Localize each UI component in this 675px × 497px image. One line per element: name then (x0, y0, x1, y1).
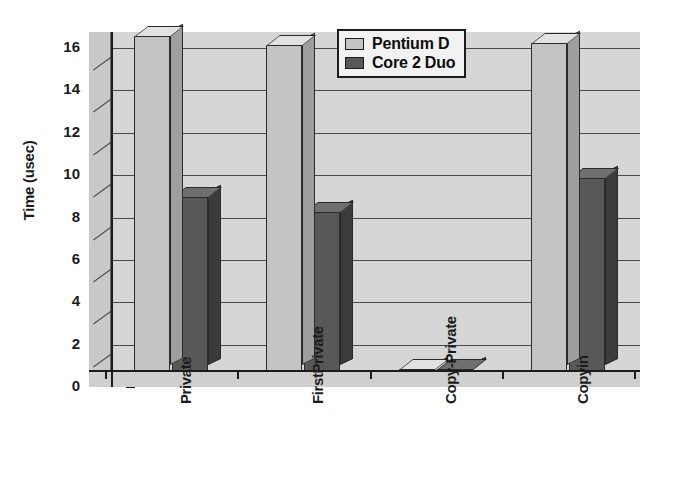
x-tick-mark (105, 370, 107, 379)
y-tick-label: 10 (46, 169, 80, 179)
y-tick-label: 16 (46, 42, 80, 52)
legend-label: Pentium D (372, 35, 449, 53)
plot-floor (89, 371, 640, 387)
chart-legend: Pentium DCore 2 Duo (337, 29, 466, 78)
x-tick-label: FirstPrivate (309, 326, 326, 404)
y-tick-label: 0 (46, 381, 80, 391)
x-tick-mark (502, 370, 504, 379)
x-tick-label: Copyin (574, 356, 591, 404)
y-tick-label: 2 (46, 339, 80, 349)
x-tick-mark (370, 370, 372, 379)
y-tick-label: 12 (46, 127, 80, 137)
x-tick-label: Copy-Private (442, 316, 459, 404)
legend-item: Pentium D (345, 34, 455, 53)
y-axis-tick-labels: 1614121086420 (46, 0, 80, 497)
y-tick-label: 8 (46, 212, 80, 222)
bar-group (89, 32, 640, 371)
y-axis-line (111, 32, 113, 387)
x-tick-mark (237, 370, 239, 379)
legend-swatch (345, 57, 364, 69)
bar-side-face (605, 166, 618, 365)
bar-front-face (531, 43, 567, 371)
y-tick-label: 6 (46, 254, 80, 264)
y-axis-title: Time (usec) (20, 126, 37, 236)
x-tick-label: Private (177, 357, 194, 404)
plot-area (89, 32, 640, 387)
bar-pentium-d (531, 43, 567, 371)
bar-chart-figure: Time (usec) 1614121086420 PrivateFirstPr… (0, 0, 675, 497)
y-tick-label: 14 (46, 84, 80, 94)
x-axis-line (89, 370, 640, 372)
x-tick-mark (634, 370, 636, 379)
legend-item: Core 2 Duo (345, 53, 455, 72)
y-tick-label: 4 (46, 296, 80, 306)
legend-swatch (345, 38, 364, 50)
legend-label: Core 2 Duo (372, 54, 455, 72)
bar-side-face (567, 30, 580, 365)
